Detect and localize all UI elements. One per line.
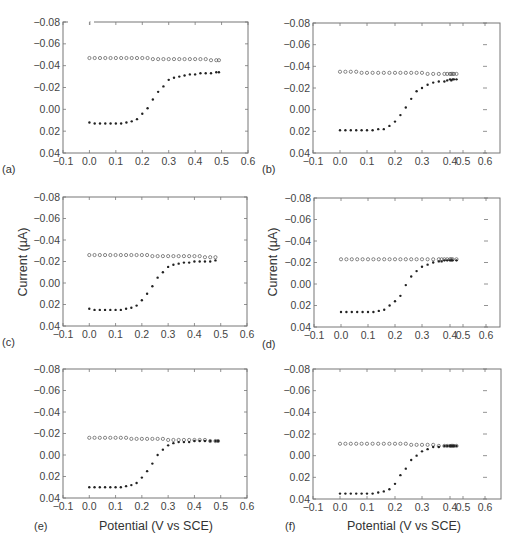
data-point: [104, 122, 106, 124]
data-point: [426, 448, 428, 450]
data-point: [161, 255, 164, 258]
series-open-circles: [88, 253, 217, 258]
data-point: [125, 121, 127, 123]
data-point: [383, 490, 385, 492]
data-point: [399, 114, 401, 116]
data-point: [455, 259, 457, 261]
data-point: [172, 442, 174, 444]
data-point: [151, 462, 153, 464]
y-tick-label: −0.06: [33, 37, 60, 49]
y-tick-label: −0.06: [283, 38, 310, 50]
data-point: [130, 253, 133, 256]
panel-label-e: (e): [34, 520, 47, 532]
data-point: [371, 129, 373, 131]
data-point: [120, 56, 123, 59]
data-point: [415, 90, 417, 92]
data-point: [410, 459, 412, 461]
x-tick-label: 0.5: [214, 155, 229, 167]
data-point: [125, 56, 128, 59]
data-point: [377, 128, 379, 130]
data-point: [103, 253, 106, 256]
data-point: [188, 255, 191, 258]
plot-frame: [63, 197, 247, 326]
data-point: [350, 129, 352, 131]
y-tick-label: −0.02: [283, 428, 310, 440]
data-point: [114, 486, 116, 488]
x-tick-label: 0.0: [333, 155, 348, 167]
data-point: [360, 492, 362, 494]
x-tick-label: 0.6: [478, 155, 493, 167]
panel-c: −0.10.00.10.20.30.40.50.6−0.08−0.06−0.04…: [33, 191, 254, 341]
data-point: [420, 71, 423, 74]
data-point: [421, 450, 423, 452]
data-point: [99, 486, 101, 488]
x-tick-label: 0.1: [108, 328, 123, 340]
y-tick-label: 0.04: [290, 493, 311, 505]
data-point: [410, 71, 413, 74]
data-point: [177, 262, 179, 264]
data-point: [366, 492, 368, 494]
data-point: [135, 437, 138, 440]
panel-f: −0.10.00.10.20.30.40.50.6−0.08−0.06−0.04…: [283, 363, 501, 514]
data-point: [388, 442, 391, 445]
data-point: [204, 440, 206, 442]
y-tick-label: −0.02: [33, 255, 60, 267]
data-point: [371, 71, 374, 74]
y-tick-label: −0.08: [283, 363, 310, 375]
data-point: [215, 71, 217, 73]
data-point: [393, 442, 396, 445]
data-point: [426, 84, 428, 86]
data-point: [371, 442, 374, 445]
data-point: [178, 75, 180, 77]
data-point: [109, 486, 111, 488]
data-point: [420, 258, 423, 261]
data-point: [366, 258, 369, 261]
data-point: [438, 80, 440, 82]
y-tick-label: 0.04: [40, 147, 61, 159]
data-point: [399, 258, 402, 261]
data-point: [109, 309, 111, 311]
y-tick-label: −0.04: [284, 235, 311, 247]
data-point: [99, 309, 101, 311]
data-point: [382, 442, 385, 445]
x-tick-label: 0.5: [456, 501, 471, 513]
data-point: [339, 258, 342, 261]
y-tick-label: −0.06: [283, 384, 310, 396]
x-tick-label: 0.2: [135, 155, 150, 167]
data-point: [88, 253, 91, 256]
y-tick-label: 0.02: [40, 298, 61, 310]
plot-frame: [63, 369, 247, 498]
data-point: [141, 56, 144, 59]
data-point: [120, 309, 122, 311]
x-tick-label: 0.2: [388, 329, 403, 341]
data-point: [156, 454, 158, 456]
data-point: [388, 304, 390, 306]
data-point: [162, 58, 165, 61]
y-tick-label: −0.02: [33, 81, 60, 93]
data-point: [415, 270, 417, 272]
data-point: [103, 436, 106, 439]
x-tick-label: 0.0: [82, 155, 97, 167]
data-point: [355, 492, 357, 494]
series-filled-dots: [340, 259, 458, 313]
data-point: [88, 56, 91, 59]
data-point: [189, 73, 191, 75]
data-point: [98, 56, 101, 59]
data-point: [350, 492, 352, 494]
panel-e: −0.10.00.10.20.30.40.50.6−0.08−0.06−0.04…: [33, 363, 254, 513]
x-tick-label: 0.6: [479, 329, 494, 341]
data-point: [339, 129, 341, 131]
data-point: [203, 256, 206, 259]
data-point: [130, 437, 133, 440]
data-point: [399, 442, 402, 445]
data-point: [366, 129, 368, 131]
data-point: [151, 285, 153, 287]
plot-frame: [63, 22, 248, 153]
data-point: [146, 107, 148, 109]
y-tick-label: −0.02: [284, 256, 311, 268]
data-point: [426, 72, 429, 75]
x-tick-label: 0.4: [187, 328, 202, 340]
panel-label-f: (f): [285, 520, 295, 532]
data-point: [356, 311, 358, 313]
data-point: [109, 122, 111, 124]
